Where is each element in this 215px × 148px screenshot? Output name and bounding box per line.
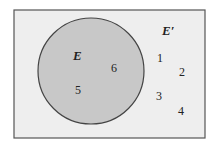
venn-diagram: E 6 5 E′ 1 2 3 4 [0, 0, 215, 148]
element-6: 6 [111, 61, 117, 75]
element-2: 2 [179, 65, 185, 79]
element-4: 4 [178, 104, 184, 118]
set-e-complement-label: E′ [161, 23, 175, 38]
set-e-circle [38, 18, 144, 124]
element-3: 3 [156, 89, 162, 103]
set-e-label: E [72, 48, 82, 63]
element-5: 5 [75, 83, 81, 97]
element-1: 1 [157, 51, 163, 65]
